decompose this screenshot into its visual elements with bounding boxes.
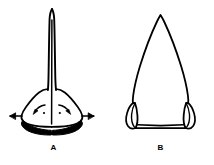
right-outward-arrow <box>82 113 94 119</box>
barb-left-outer <box>126 103 135 129</box>
figure-label-b: B <box>107 143 214 152</box>
figure-panel-a: A <box>0 0 107 165</box>
blade-outline <box>133 15 189 128</box>
barb-right-inner <box>186 103 189 127</box>
right-curved-arrow <box>59 105 71 114</box>
left-curved-arrow <box>33 105 45 114</box>
projectile-point-spike-icon <box>0 0 107 165</box>
base-lobe-left-solid <box>21 121 51 135</box>
projectile-point-barbed-icon <box>107 0 214 165</box>
basal-stem-line <box>137 125 184 126</box>
left-outward-arrow <box>10 113 22 119</box>
figure-panel-b: B <box>107 0 214 165</box>
barb-left-inner <box>132 103 135 127</box>
figure-label-a: A <box>0 143 107 152</box>
base-lobe-right-solid <box>53 121 83 135</box>
figure-plate: A B <box>0 0 214 165</box>
barb-right-outer <box>186 103 195 129</box>
base-outline-right <box>52 89 83 127</box>
base-outline-left <box>21 89 51 127</box>
